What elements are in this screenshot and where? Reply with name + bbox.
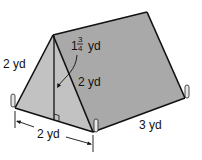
label-height-numerator: 3 — [78, 35, 83, 44]
label-height-unit: yd — [88, 39, 101, 53]
label-base: 2 yd — [37, 127, 60, 141]
label-slant-left: 2 yd — [3, 57, 26, 71]
label-height-whole: 1 — [71, 39, 78, 53]
label-length: 3 yd — [139, 118, 162, 132]
tent-diagram: 2 yd 2 yd 1 3 4 yd 2 yd 3 yd — [0, 0, 202, 160]
label-height-denominator: 4 — [78, 44, 83, 53]
label-slant-right: 2 yd — [78, 75, 101, 89]
